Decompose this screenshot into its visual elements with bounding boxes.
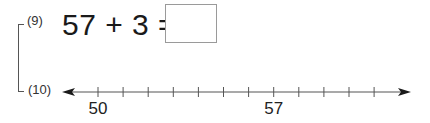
number-line [0,0,430,123]
tick-label-57: 57 [264,99,283,119]
tick-label-50: 50 [89,99,108,119]
